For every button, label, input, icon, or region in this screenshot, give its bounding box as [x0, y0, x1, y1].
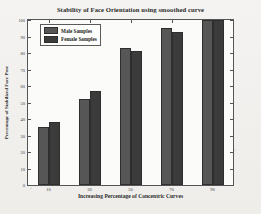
y-axis-tick-label: 10 [21, 166, 25, 171]
x-axis-tick-label: 50 [128, 187, 132, 192]
chart-title: Stability of Face Orientation using smoo… [0, 6, 261, 13]
bar-group [110, 20, 151, 185]
bar-male[interactable] [161, 28, 172, 185]
chart-legend: Male Samples Female Samples [40, 24, 101, 46]
legend-swatch-male-icon [44, 27, 58, 34]
x-axis-tick-label: 10 [46, 187, 50, 192]
y-axis-tick-label: 50 [21, 100, 25, 105]
bar-group [192, 20, 233, 185]
bar-male[interactable] [38, 127, 49, 185]
x-axis-tick-label: 30 [87, 187, 91, 192]
figure-canvas: Stability of Face Orientation using smoo… [0, 0, 261, 214]
y-axis-tick-label: 30 [21, 133, 25, 138]
y-axis-tick-mark-right [230, 185, 233, 186]
legend-item-male[interactable]: Male Samples [44, 27, 97, 34]
bar-male[interactable] [120, 48, 131, 185]
y-axis-title-text: Percentage of Stabilized Face Pose [5, 66, 10, 140]
bar-male[interactable] [79, 99, 90, 185]
x-axis-tick-label: 90 [210, 187, 214, 192]
x-axis-title: Increasing Percentage of Concentric Curv… [27, 193, 234, 199]
bar-female[interactable] [131, 51, 142, 185]
bar-group [151, 20, 192, 185]
legend-label-female: Female Samples [61, 36, 97, 42]
bar-female[interactable] [213, 20, 224, 185]
bar-female[interactable] [90, 91, 101, 185]
y-axis-tick-label: 20 [21, 150, 25, 155]
y-axis-tick-label: 70 [21, 67, 25, 72]
legend-item-female[interactable]: Female Samples [44, 36, 97, 43]
y-axis-title: Percentage of Stabilized Face Pose [2, 19, 12, 186]
y-axis-tick-label: 90 [21, 34, 25, 39]
y-axis-tick-label: 40 [21, 117, 25, 122]
x-axis-tick-label: 70 [169, 187, 173, 192]
legend-label-male: Male Samples [61, 28, 92, 34]
y-axis-tick-label: 0 [23, 183, 25, 188]
bar-female[interactable] [49, 122, 60, 185]
bar-female[interactable] [172, 32, 183, 185]
bar-male[interactable] [202, 20, 213, 185]
y-axis-tick-label: 60 [21, 84, 25, 89]
y-axis-tick-label: 80 [21, 51, 25, 56]
plot-area: 01020304050607080901001030507090 Male Sa… [27, 19, 234, 186]
y-axis-tick-mark [28, 185, 31, 186]
legend-swatch-female-icon [44, 36, 58, 43]
y-axis-tick-label: 100 [18, 18, 25, 23]
